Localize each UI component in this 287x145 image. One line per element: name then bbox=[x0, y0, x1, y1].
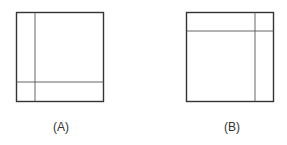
figure-a-label: (A) bbox=[53, 120, 69, 134]
figure-a bbox=[17, 13, 104, 102]
diagram-canvas bbox=[0, 0, 287, 145]
figure-b bbox=[187, 13, 274, 102]
figure-b-label: (B) bbox=[224, 120, 240, 134]
square-b-outline bbox=[187, 13, 274, 102]
square-a-outline bbox=[17, 13, 104, 102]
